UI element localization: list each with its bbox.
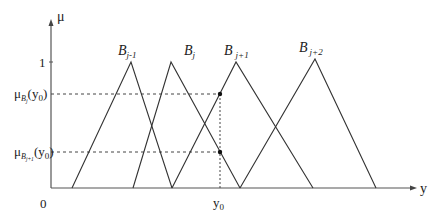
y0-label: y0 (213, 195, 225, 212)
origin-label: 0 (40, 196, 47, 211)
label-b-j-minus-1: Bj-1 (118, 43, 137, 60)
fuzzy-membership-diagram: μ y 0 1 y0 μBj(y0) μBj+1(y0) Bj-1 Bj Bj+… (0, 0, 438, 220)
lower-level-label: μBj+1(y0) (14, 144, 54, 162)
x-axis-arrow-icon (410, 186, 417, 191)
label-b-j-plus-2: Bj+2 (299, 40, 323, 57)
y-axis-arrow-icon (49, 19, 54, 26)
lower-intersection-dot (218, 150, 222, 154)
membership-b-j-plus-1 (172, 62, 313, 188)
diagram-svg: μ y 0 1 y0 μBj(y0) μBj+1(y0) Bj-1 Bj Bj+… (0, 0, 438, 220)
tick-one-label: 1 (39, 55, 46, 70)
membership-b-j-minus-1 (72, 62, 172, 188)
membership-b-j (133, 62, 240, 188)
membership-b-j-plus-2 (240, 59, 376, 188)
x-axis-label: y (420, 181, 427, 196)
label-b-j: Bj (184, 43, 196, 60)
upper-intersection-dot (218, 92, 222, 96)
upper-level-label: μBj(y0) (14, 86, 47, 104)
label-b-j-plus-1: Bj+1 (224, 43, 249, 60)
y-axis-label: μ (57, 9, 65, 24)
